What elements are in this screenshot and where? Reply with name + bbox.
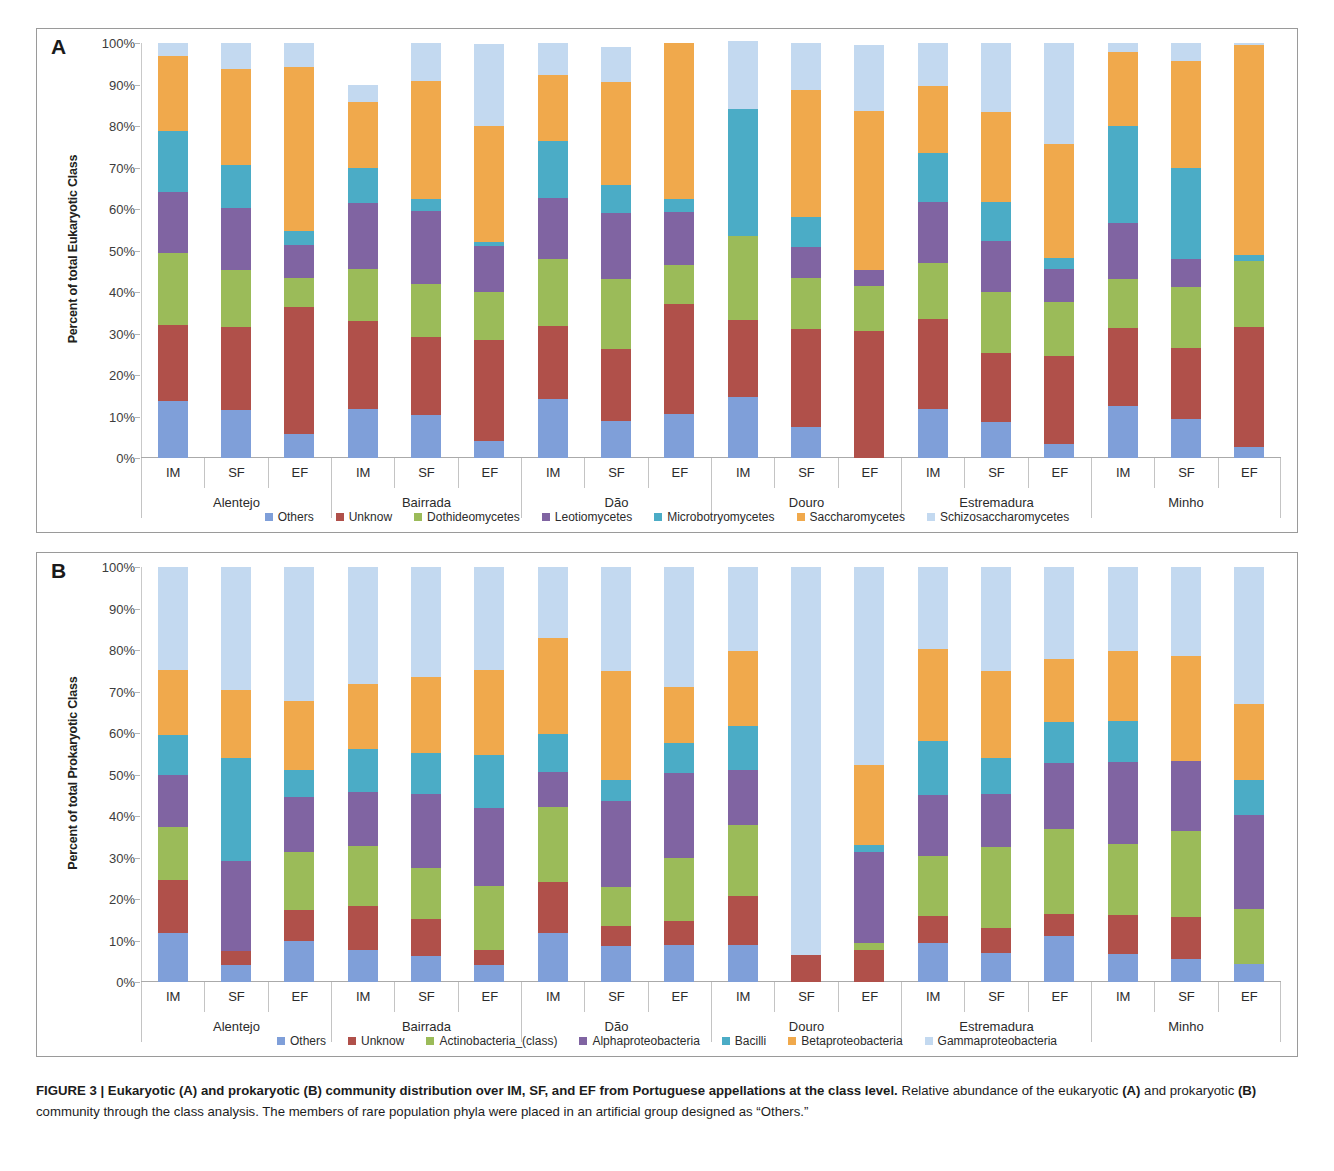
y-tick-mark bbox=[135, 982, 140, 983]
bar-stack bbox=[158, 567, 188, 982]
y-tick-label: 40% bbox=[109, 285, 135, 300]
bar-segment bbox=[474, 950, 504, 965]
legend-item[interactable]: Saccharomycetes bbox=[797, 510, 905, 524]
bar-stack bbox=[854, 43, 884, 458]
y-tick-mark bbox=[135, 899, 140, 900]
bar-segment bbox=[158, 325, 188, 401]
bar-segment bbox=[981, 353, 1011, 422]
bar-stack bbox=[538, 567, 568, 982]
legend-item[interactable]: Microbotryomycetes bbox=[654, 510, 774, 524]
bar-segment bbox=[284, 43, 314, 67]
y-tick-mark bbox=[135, 292, 140, 293]
bar-segment bbox=[1044, 722, 1074, 763]
bar-segment bbox=[1044, 763, 1074, 829]
legend-swatch-icon bbox=[414, 513, 422, 521]
y-tick-mark bbox=[135, 941, 140, 942]
y-tick-mark bbox=[135, 567, 140, 568]
bar-segment bbox=[918, 916, 948, 942]
bar-segment bbox=[981, 794, 1011, 846]
bar-segment bbox=[221, 410, 251, 458]
bar-segment bbox=[474, 755, 504, 807]
bar-segment bbox=[981, 671, 1011, 758]
sample-label: SF bbox=[584, 458, 647, 488]
bar-segment bbox=[538, 638, 568, 734]
bar-segment bbox=[728, 320, 758, 397]
bar-stack bbox=[791, 43, 821, 458]
bar-segment bbox=[1044, 659, 1074, 722]
y-tick-mark bbox=[135, 650, 140, 651]
bar-segment bbox=[1044, 914, 1074, 936]
legend-item[interactable]: Schizosaccharomycetes bbox=[927, 510, 1069, 524]
bar-segment bbox=[474, 340, 504, 441]
bar-segment bbox=[728, 770, 758, 825]
bar-segment bbox=[728, 397, 758, 458]
legend-item[interactable]: Gammaproteobacteria bbox=[925, 1034, 1057, 1048]
legend-item[interactable]: Unknow bbox=[336, 510, 392, 524]
sample-label: IM bbox=[331, 982, 394, 1012]
legend-item[interactable]: Alphaproteobacteria bbox=[579, 1034, 699, 1048]
bar-segment bbox=[1108, 328, 1138, 406]
panel-a-y-axis-title: Percent of total Eukaryotic Class bbox=[66, 69, 80, 429]
bar-segment bbox=[664, 858, 694, 922]
y-tick-label: 40% bbox=[109, 809, 135, 824]
bar-segment bbox=[221, 327, 251, 410]
sample-label: EF bbox=[1218, 982, 1281, 1012]
legend-item[interactable]: Unknow bbox=[348, 1034, 404, 1048]
bar-segment bbox=[601, 421, 631, 458]
bar-segment bbox=[474, 886, 504, 950]
sample-label: IM bbox=[141, 458, 204, 488]
bar-segment bbox=[538, 882, 568, 933]
bar-segment bbox=[221, 567, 251, 690]
bar-segment bbox=[1108, 52, 1138, 126]
caption-text-2: and prokaryotic bbox=[1140, 1083, 1238, 1098]
panel-b-plot-area: Percent of total Prokaryotic Class 0%10%… bbox=[141, 567, 1281, 982]
sample-label: IM bbox=[901, 458, 964, 488]
legend-item[interactable]: Bacilli bbox=[722, 1034, 766, 1048]
bar-segment bbox=[664, 773, 694, 858]
legend-item[interactable]: Others bbox=[277, 1034, 326, 1048]
bar-segment bbox=[601, 780, 631, 801]
bar-segment bbox=[158, 880, 188, 932]
sample-label: IM bbox=[141, 982, 204, 1012]
bar-segment bbox=[728, 945, 758, 982]
legend-item[interactable]: Leotiomycetes bbox=[542, 510, 632, 524]
y-tick-mark bbox=[135, 609, 140, 610]
bar-segment bbox=[854, 331, 884, 458]
bar-stack bbox=[1108, 567, 1138, 982]
y-tick-mark bbox=[135, 858, 140, 859]
sample-label: SF bbox=[964, 982, 1027, 1012]
bar-segment bbox=[854, 45, 884, 111]
legend-item[interactable]: Dothideomycetes bbox=[414, 510, 520, 524]
bar-segment bbox=[348, 168, 378, 203]
bar-segment bbox=[411, 567, 441, 677]
bar-segment bbox=[158, 827, 188, 880]
bar-stack bbox=[601, 43, 631, 458]
bar-segment bbox=[411, 677, 441, 753]
bar-segment bbox=[158, 670, 188, 734]
legend-item[interactable]: Betaproteobacteria bbox=[788, 1034, 902, 1048]
bar-stack bbox=[728, 43, 758, 458]
legend-label: Microbotryomycetes bbox=[667, 510, 774, 524]
y-tick-label: 90% bbox=[109, 601, 135, 616]
y-tick-label: 10% bbox=[109, 409, 135, 424]
bar-segment bbox=[221, 758, 251, 861]
legend-item[interactable]: Actinobacteria_(class) bbox=[426, 1034, 557, 1048]
bar-segment bbox=[538, 933, 568, 982]
bar-segment bbox=[538, 75, 568, 141]
bar-segment bbox=[411, 43, 441, 81]
bar-segment bbox=[601, 213, 631, 279]
bar-segment bbox=[1171, 61, 1201, 168]
bar-segment bbox=[728, 567, 758, 651]
legend-item[interactable]: Others bbox=[265, 510, 314, 524]
bar-segment bbox=[664, 687, 694, 743]
bar-stack bbox=[1171, 567, 1201, 982]
bar-segment bbox=[791, 329, 821, 427]
bar-segment bbox=[474, 441, 504, 458]
sample-label: SF bbox=[584, 982, 647, 1012]
bar-segment bbox=[538, 141, 568, 198]
legend-label: Dothideomycetes bbox=[427, 510, 520, 524]
bar-segment bbox=[918, 741, 948, 795]
bar-segment bbox=[601, 82, 631, 184]
y-tick-label: 20% bbox=[109, 368, 135, 383]
bar-segment bbox=[601, 349, 631, 422]
